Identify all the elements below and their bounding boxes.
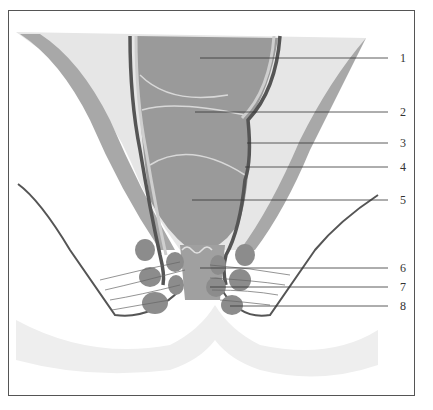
label-8: 8 [400, 299, 406, 314]
label-2: 2 [400, 105, 406, 120]
label-5: 5 [400, 193, 406, 208]
buttock-band [16, 305, 378, 376]
label-3: 3 [400, 136, 406, 151]
label-4: 4 [400, 160, 406, 175]
label-7: 7 [400, 280, 406, 295]
label-1: 1 [400, 51, 406, 66]
anatomy-illustration [0, 0, 433, 410]
label-6: 6 [400, 261, 406, 276]
